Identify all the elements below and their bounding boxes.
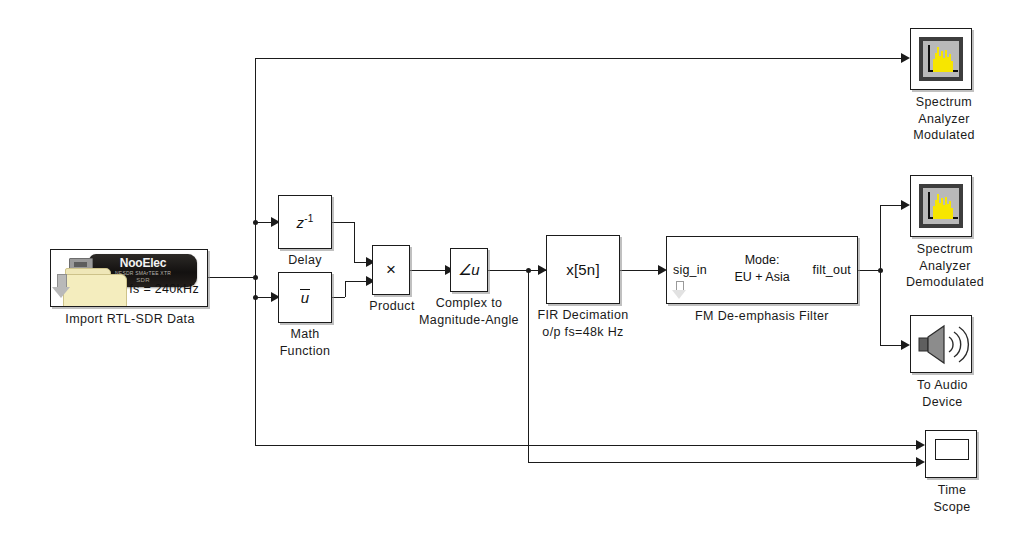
- block-spectrum-analyzer-demodulated[interactable]: [910, 175, 972, 237]
- arrowhead-time-scope-in1: [916, 440, 925, 450]
- block-to-audio-device[interactable]: [910, 315, 972, 373]
- arrowhead-audio-in: [901, 340, 910, 350]
- scope-screen-icon: [935, 439, 969, 460]
- wire-to-spectrum-modulated: [255, 58, 907, 59]
- block-import-rtl-sdr-data[interactable]: NooElec NESDR SMArTEE XTR SDR fs = 240kH…: [50, 249, 208, 307]
- arrowhead-time-scope-in2: [916, 457, 925, 467]
- caption-to-audio-device: To Audio Device: [900, 377, 985, 410]
- block-delay[interactable]: z-1: [278, 195, 332, 249]
- wire-sdr-out: [208, 277, 257, 278]
- wire-to-time-scope-1: [255, 445, 922, 446]
- spectrum-analyzer-icon: [919, 37, 963, 81]
- wire-branch-to-audio-v: [880, 270, 881, 345]
- wire-math-out-a: [332, 297, 345, 298]
- wire-to-time-scope-2: [528, 462, 922, 463]
- caption-fir-decimation: FIR Decimation o/p fs=48k Hz: [523, 307, 643, 340]
- wire-delay-out-a: [332, 222, 354, 223]
- block-complex-to-magnitude-angle[interactable]: ∠u: [450, 248, 488, 292]
- caption-spectrum-analyzer-modulated: Spectrum Analyzer Modulated: [896, 94, 992, 144]
- folder-icon: [63, 268, 129, 307]
- delay-symbol: z-1: [297, 213, 314, 231]
- caption-fm-deemphasis-filter: FM De-emphasis Filter: [662, 308, 862, 325]
- caption-product: Product: [355, 298, 429, 315]
- sample-rate-label: fs = 240kHz: [129, 282, 199, 296]
- subsystem-arrow-icon: [673, 281, 686, 299]
- caption-import-rtl-sdr-data: Import RTL-SDR Data: [40, 311, 220, 328]
- spectrum-analyzer-icon: [919, 184, 963, 228]
- simulink-canvas[interactable]: NooElec NESDR SMArTEE XTR SDR fs = 240kH…: [0, 0, 1022, 546]
- product-symbol: ×: [386, 260, 396, 280]
- caption-complex-to-magnitude-angle: Complex to Magnitude-Angle: [419, 295, 519, 328]
- wire-delay-out-v: [354, 222, 355, 262]
- block-product[interactable]: ×: [372, 245, 410, 295]
- block-spectrum-analyzer-modulated[interactable]: [910, 28, 972, 90]
- arrowhead-spectrum-modulated: [901, 53, 910, 63]
- fir-decimation-symbol: x[5n]: [566, 261, 600, 278]
- wire-cma-branch-vertical: [528, 270, 529, 462]
- block-math-function[interactable]: u: [278, 272, 332, 323]
- wire-branch-to-sa-demod-v: [880, 205, 881, 270]
- caption-time-scope: Time Scope: [912, 482, 992, 515]
- wire-math-out-v: [345, 281, 346, 297]
- wire-main-bus-vertical: [255, 58, 256, 445]
- arrowhead-spectrum-demodulated: [901, 200, 910, 210]
- fm-deemphasis-mode-label: Mode: EU + Asia: [667, 252, 857, 286]
- block-fm-deemphasis-filter[interactable]: sig_in filt_out Mode: EU + Asia: [666, 236, 858, 304]
- complex-to-magnitude-angle-symbol: ∠u: [458, 261, 480, 278]
- junction-sdr-bus: [253, 275, 258, 280]
- block-time-scope[interactable]: [925, 430, 977, 478]
- math-function-symbol: u: [300, 289, 311, 307]
- block-fir-decimation[interactable]: x[5n]: [546, 235, 620, 304]
- wire-product-out: [410, 270, 450, 271]
- speaker-icon: [911, 321, 971, 367]
- caption-spectrum-analyzer-demodulated: Spectrum Analyzer Demodulated: [890, 241, 1000, 291]
- caption-delay: Delay: [265, 252, 345, 269]
- caption-math-function: Math Function: [265, 326, 345, 359]
